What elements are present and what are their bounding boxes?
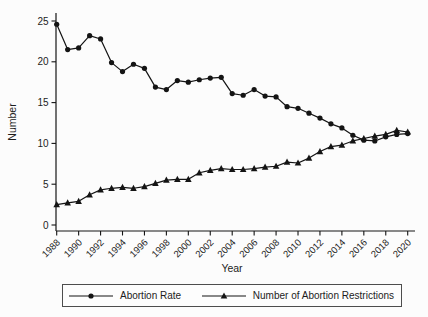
abortion-rate-circle-marker-icon [164,87,169,92]
x-tick-label: 1996 [127,237,150,260]
number-of-abortion-restrictions-triangle-marker-icon [75,198,82,204]
x-tick-label: 2006 [237,237,260,260]
x-tick-label: 2018 [368,237,391,260]
y-tick-label: 15 [37,97,49,108]
abortion-rate-circle-marker-icon [142,66,147,71]
abortion-rate-circle-marker-icon [54,22,59,27]
number-of-abortion-restrictions-triangle-marker-icon [306,154,313,160]
x-tick-label: 2016 [347,237,370,260]
abortion-rate-circle-marker-icon [230,91,235,96]
x-tick-label: 2008 [259,237,282,260]
chart-canvas: Number Year 0510152025198819901992199419… [0,0,428,280]
number-of-abortion-restrictions-triangle-marker-icon [393,127,400,133]
abortion-rate-circle-marker-icon [306,111,311,116]
number-of-abortion-restrictions-triangle-marker-icon [284,159,291,165]
x-tick-label: 2012 [303,237,326,260]
abortion-rate-circle-marker-icon [98,36,103,41]
legend-item-abortion-rate: Abortion Rate [69,290,181,301]
abortion-rate-circle-marker-icon [295,106,300,111]
legend: Abortion RateNumber of Abortion Restrict… [62,284,402,307]
legend-label-abortion-rate: Abortion Rate [120,290,181,301]
number-of-abortion-restrictions-triangle-marker-icon [119,184,126,190]
y-axis-title: Number [6,103,18,141]
abortion-rate-circle-marker-icon [241,93,246,98]
abortion-rate-circle-marker-icon [273,94,278,99]
legend-label-number-of-abortion-restrictions: Number of Abortion Restrictions [253,290,394,301]
abortion-rate-circle-marker-icon [252,87,257,92]
y-tick-label: 20 [37,56,49,67]
abortion-rate-circle-marker-icon [109,60,114,65]
series-line-abortion-rate [57,24,408,141]
abortion-rate-circle-marker-icon [197,77,202,82]
x-tick-label: 1990 [61,237,84,260]
abortion-rate-circle-marker-icon [263,93,268,98]
legend-sample-circle-icon [69,291,113,301]
y-tick-label: 10 [37,138,49,149]
abortion-rate-circle-marker-icon [339,125,344,130]
abortion-rate-circle-marker-icon [284,104,289,109]
abortion-rate-circle-marker-icon [131,62,136,67]
x-tick-label: 1994 [105,237,128,260]
abortion-rate-circle-marker-icon [65,47,70,52]
abortion-rate-circle-marker-icon [153,84,158,89]
number-of-abortion-restrictions-triangle-marker-icon [218,165,225,171]
y-tick-label: 25 [37,16,49,27]
x-tick-label: 2014 [325,237,348,260]
abortion-rate-circle-marker-icon [317,116,322,121]
x-tick-label: 2004 [215,237,238,260]
abortion-rate-circle-marker-icon [208,76,213,81]
x-tick-label: 2002 [193,237,216,260]
abortion-rate-circle-marker-icon [328,121,333,126]
x-tick-label: 2020 [390,237,413,260]
abortion-rate-circle-marker-icon [87,33,92,38]
x-tick-label: 2000 [171,237,194,260]
x-axis-title: Year [221,262,243,274]
x-tick-label: 1998 [149,237,172,260]
abortion-rate-circle-marker-icon [120,69,125,74]
y-tick-label: 5 [43,179,49,190]
x-tick-label: 1992 [83,237,106,260]
abortion-rate-circle-marker-icon [372,138,377,143]
abortion-rate-circle-marker-icon [76,45,81,50]
abortion-chart-figure: Number Year 0510152025198819901992199419… [0,0,428,317]
legend-item-number-of-abortion-restrictions: Number of Abortion Restrictions [202,290,394,301]
circle-marker-icon [88,293,93,298]
abortion-rate-circle-marker-icon [186,80,191,85]
abortion-rate-circle-marker-icon [219,75,224,80]
abortion-rate-circle-marker-icon [175,78,180,83]
x-tick-label: 2010 [281,237,304,260]
legend-sample-triangle-icon [202,291,246,301]
abortion-rate-circle-marker-icon [350,133,355,138]
y-tick-label: 0 [43,220,49,231]
x-tick-label: 1988 [39,237,62,260]
